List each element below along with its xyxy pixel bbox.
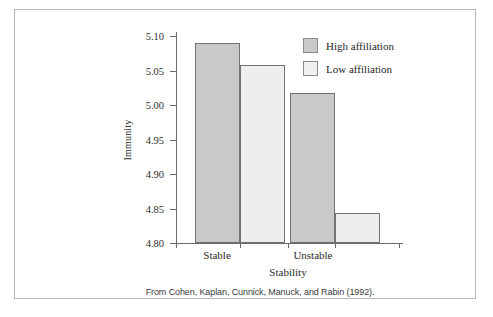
x-axis-tick — [176, 243, 177, 248]
y-axis-tick-label: 5.05 — [146, 65, 164, 76]
y-axis-tick-label: 4.85 — [146, 203, 164, 214]
figure-frame: 5.105.055.004.954.904.854.80 StableUnsta… — [14, 9, 476, 299]
x-axis-title: Stability — [269, 266, 306, 278]
legend-swatch-high — [303, 38, 318, 53]
figure-root: 5.105.055.004.954.904.854.80 StableUnsta… — [0, 0, 493, 317]
y-axis-tick-label: 4.80 — [146, 238, 164, 249]
legend-label-low: Low affiliation — [326, 63, 392, 75]
x-axis-label-unstable: Unstable — [293, 249, 332, 261]
x-axis-tick — [240, 243, 241, 248]
legend-item-low: Low affiliation — [303, 61, 394, 76]
y-axis-tick-label: 4.90 — [146, 169, 164, 180]
x-axis-label-stable: Stable — [203, 249, 231, 261]
x-axis-tick — [335, 243, 336, 248]
bar-stable-high — [195, 43, 240, 243]
bar-unstable-high — [290, 93, 335, 243]
legend-label-high: High affiliation — [326, 40, 394, 52]
figure-caption: From Cohen, Kaplan, Cunnick, Manuck, and… — [146, 287, 375, 297]
x-axis-line — [176, 243, 403, 244]
bar-stable-low — [240, 65, 285, 243]
legend: High affiliationLow affiliation — [303, 38, 394, 76]
y-axis-tick-label: 5.10 — [146, 31, 164, 42]
x-axis-tick — [399, 243, 400, 248]
x-axis-tick — [288, 243, 289, 248]
legend-swatch-low — [303, 61, 318, 76]
y-axis-tick-label: 5.00 — [146, 100, 164, 111]
bar-unstable-low — [335, 213, 380, 243]
legend-item-high: High affiliation — [303, 38, 394, 53]
y-axis-tick-label: 4.95 — [146, 134, 164, 145]
y-axis-title: Immunity — [122, 119, 133, 160]
